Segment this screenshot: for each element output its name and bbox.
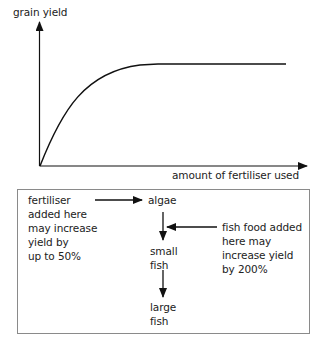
node-large-fish: large fish xyxy=(150,300,176,328)
left-note: fertiliser added here may increase yield… xyxy=(28,193,97,263)
node-label: algae xyxy=(148,193,176,207)
right-note-line: fish food added xyxy=(222,220,302,234)
node-label: large xyxy=(150,300,176,314)
node-label: small xyxy=(150,244,177,258)
left-note-line: added here xyxy=(28,207,97,221)
node-label: fish xyxy=(150,258,177,272)
y-axis-label: grain yield xyxy=(13,5,67,19)
right-note-line: here may xyxy=(222,234,302,248)
node-algae: algae xyxy=(148,193,176,207)
left-note-line: fertiliser xyxy=(28,193,97,207)
node-label: fish xyxy=(150,314,176,328)
right-note: fish food added here may increase yield … xyxy=(222,220,302,276)
right-note-line: by 200% xyxy=(222,262,302,276)
left-note-line: yield by xyxy=(28,235,97,249)
right-note-line: increase yield xyxy=(222,248,302,262)
node-small-fish: small fish xyxy=(150,244,177,272)
yield-curve xyxy=(40,64,286,166)
left-note-line: may increase xyxy=(28,221,97,235)
left-note-line: up to 50% xyxy=(28,249,97,263)
x-axis-label: amount of fertiliser used xyxy=(172,168,299,182)
